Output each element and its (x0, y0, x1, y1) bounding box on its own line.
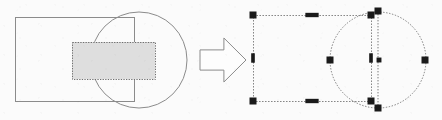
handle-top-right[interactable] (368, 12, 375, 19)
handle-bottom-left[interactable] (250, 98, 257, 105)
handle-top-left[interactable] (250, 12, 257, 19)
handle-bottom-center[interactable] (305, 99, 318, 103)
handle-middle-left[interactable] (251, 53, 255, 62)
handle-right[interactable] (422, 57, 429, 64)
right-panel-group (250, 8, 429, 112)
transformation-arrow-group (200, 38, 246, 82)
handle-bottom-right[interactable] (368, 98, 375, 105)
shape-selection-figure (0, 0, 442, 120)
handle-top[interactable] (375, 8, 382, 15)
handle-left[interactable] (327, 57, 334, 64)
shaded-overlap-region (72, 42, 155, 79)
handle-top-center[interactable] (305, 13, 318, 17)
handle-middle-right[interactable] (369, 53, 373, 62)
handle-bottom[interactable] (375, 105, 382, 112)
left-panel-group (16, 12, 188, 108)
handle-center[interactable] (377, 58, 382, 63)
transformation-arrow (200, 38, 246, 82)
selected-rectangle-outline[interactable] (254, 16, 372, 102)
rectangle-resize-handles[interactable] (250, 12, 375, 105)
figure-canvas (0, 0, 442, 120)
